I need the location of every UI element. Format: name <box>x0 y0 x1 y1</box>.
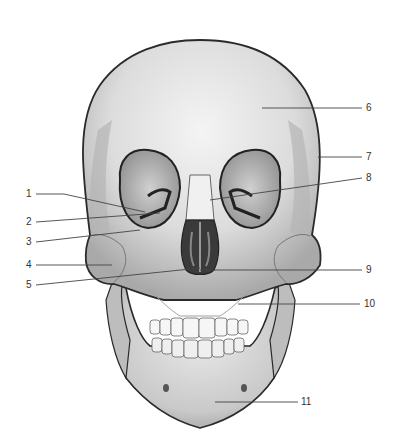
skull-diagram: 1 2 3 4 5 6 7 8 9 10 11 <box>0 0 399 447</box>
label-1: 1 <box>26 189 32 199</box>
label-10: 10 <box>364 299 375 309</box>
label-7: 7 <box>366 152 372 162</box>
label-8: 8 <box>366 173 372 183</box>
nasal-bone <box>186 175 214 220</box>
left-orbit <box>120 150 180 228</box>
label-4: 4 <box>26 260 32 270</box>
right-orbit <box>220 150 280 228</box>
label-9: 9 <box>366 265 372 275</box>
label-5: 5 <box>26 280 32 290</box>
label-3: 3 <box>26 237 32 247</box>
label-2: 2 <box>26 217 32 227</box>
label-6: 6 <box>366 103 372 113</box>
label-11: 11 <box>301 397 311 407</box>
skull-illustration <box>0 0 399 447</box>
upper-teeth <box>150 318 248 338</box>
